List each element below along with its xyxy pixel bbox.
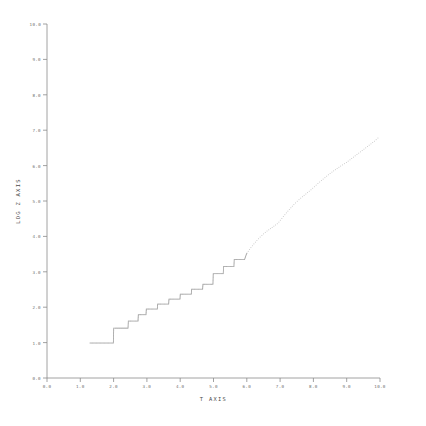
data-point (106, 343, 107, 344)
data-point (234, 264, 235, 265)
data-point (364, 149, 365, 150)
data-point (167, 304, 168, 305)
data-point (214, 273, 215, 274)
y-tick-label: 6.0 (23, 163, 41, 168)
data-point (287, 211, 288, 212)
data-point (316, 185, 317, 186)
data-point (219, 273, 220, 274)
data-point (185, 294, 186, 295)
y-axis-tick-marks (43, 24, 47, 378)
x-axis-title: T AXIS (200, 396, 227, 402)
data-point (278, 222, 279, 223)
data-point (223, 272, 224, 273)
data-point (184, 294, 185, 295)
data-point (211, 284, 212, 285)
data-point (342, 164, 343, 165)
data-point (160, 304, 161, 305)
data-point (113, 330, 114, 331)
data-point (309, 191, 310, 192)
data-point (142, 314, 143, 315)
data-point (103, 343, 104, 344)
data-point (305, 194, 306, 195)
data-point (371, 143, 372, 144)
data-point (143, 314, 144, 315)
data-point (224, 266, 225, 267)
data-point (140, 314, 141, 315)
data-point (241, 259, 242, 260)
data-point (181, 294, 182, 295)
data-point (223, 269, 224, 270)
data-point (344, 163, 345, 164)
data-point (270, 228, 271, 229)
data-point (206, 284, 207, 285)
data-point (113, 339, 114, 340)
data-point (263, 233, 264, 234)
data-point (130, 321, 131, 322)
data-point (94, 343, 95, 344)
data-point (175, 299, 176, 300)
data-point (128, 326, 129, 327)
data-point (240, 259, 241, 260)
data-point (210, 284, 211, 285)
data-point (253, 243, 254, 244)
data-point (128, 323, 129, 324)
y-tick-label: 3.0 (23, 269, 41, 274)
data-point (98, 343, 99, 344)
data-point (353, 157, 354, 158)
data-point (128, 327, 129, 328)
data-point (104, 343, 105, 344)
data-point (358, 153, 359, 154)
data-point (226, 266, 227, 267)
data-point (200, 289, 201, 290)
data-point (181, 294, 182, 295)
data-point (187, 294, 188, 295)
data-point (223, 267, 224, 268)
y-axis-title: LOG Z AXIS (15, 178, 21, 223)
data-point (139, 314, 140, 315)
data-point (107, 343, 108, 344)
data-point (331, 172, 332, 173)
data-point (302, 196, 303, 197)
data-point (357, 154, 358, 155)
data-point (109, 343, 110, 344)
x-tick-label: 0.0 (43, 384, 52, 389)
data-point (156, 309, 157, 310)
data-point (228, 266, 229, 267)
data-point (113, 342, 114, 343)
data-point (365, 147, 366, 148)
data-point (159, 304, 160, 305)
data-point (326, 176, 327, 177)
data-point (134, 321, 135, 322)
data-point (183, 294, 184, 295)
data-point (281, 218, 282, 219)
data-point (229, 266, 230, 267)
data-point (374, 141, 375, 142)
data-point (154, 309, 155, 310)
data-point (228, 266, 229, 267)
data-point (96, 343, 97, 344)
data-point (132, 321, 133, 322)
data-point (293, 204, 294, 205)
data-point (129, 321, 130, 322)
data-point (113, 328, 114, 329)
data-point (162, 304, 163, 305)
x-tick-label: 1.0 (76, 384, 85, 389)
data-point (213, 282, 214, 283)
data-point (289, 209, 290, 210)
data-point (170, 299, 171, 300)
data-point (133, 321, 134, 322)
data-point (113, 340, 114, 341)
data-point (213, 280, 214, 281)
data-point (348, 161, 349, 162)
data-point (324, 177, 325, 178)
data-point (188, 294, 189, 295)
data-point (146, 309, 147, 310)
data-point (113, 336, 114, 337)
data-point (337, 168, 338, 169)
data-point (232, 266, 233, 267)
data-point (194, 289, 195, 290)
data-point (113, 335, 114, 336)
data-point (101, 343, 102, 344)
data-point (317, 183, 318, 184)
data-point (209, 284, 210, 285)
